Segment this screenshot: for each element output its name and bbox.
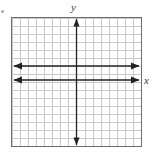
coordinate-grid-figure: y x — [0, 0, 155, 160]
graph-paper-grid — [11, 17, 142, 147]
corner-artifact-dot — [1, 10, 4, 13]
y-axis-label: y — [71, 2, 76, 13]
x-axis-label: x — [144, 75, 149, 86]
